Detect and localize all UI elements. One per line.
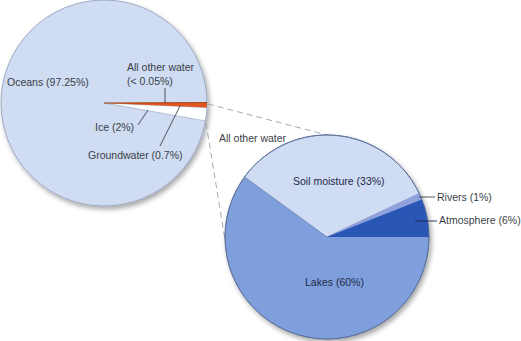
pie-earth-water <box>1 0 207 206</box>
label-detail-title: All other water <box>219 132 287 144</box>
water-distribution-diagram: Oceans (97.25%) All other water (< 0.05%… <box>0 0 521 341</box>
label-all-other-water-value: (< 0.05%) <box>127 75 173 87</box>
label-soil-moisture: Soil moisture (33%) <box>293 175 385 187</box>
label-atmosphere: Atmosphere (6%) <box>439 214 521 226</box>
label-oceans: Oceans (97.25%) <box>7 76 89 88</box>
label-ice: Ice (2%) <box>95 121 134 133</box>
label-groundwater: Groundwater (0.7%) <box>88 149 183 161</box>
label-all-other-water: All other water <box>127 61 195 73</box>
pie-all-other-water <box>225 135 429 339</box>
label-rivers: Rivers (1%) <box>437 191 492 203</box>
label-lakes: Lakes (60%) <box>305 276 364 288</box>
